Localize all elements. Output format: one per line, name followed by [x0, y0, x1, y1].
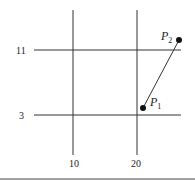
point-p1 — [140, 105, 146, 111]
p1-subscript: 1 — [157, 102, 161, 111]
p2-subscript: 2 — [168, 36, 172, 45]
x-label-10: 10 — [69, 158, 79, 169]
y-label-11: 11 — [16, 45, 26, 56]
grid-diagram: 11 3 10 20 P1 P2 — [0, 0, 195, 182]
y-label-3: 3 — [19, 110, 24, 121]
point-p2 — [176, 37, 182, 43]
point-label-p1: P1 — [149, 95, 161, 111]
x-label-20: 20 — [131, 158, 141, 169]
point-label-p2: P2 — [160, 29, 172, 45]
